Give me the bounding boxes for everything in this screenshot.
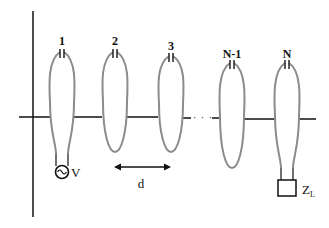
resonator-chain-diagram: · · · 1 2 3 N-1 N V d ZL [0, 0, 329, 228]
ellipsis: · · · [193, 112, 213, 123]
sine-wave-icon [58, 170, 67, 174]
load-label: ZL [302, 182, 315, 199]
ring-label-3: 3 [168, 39, 174, 53]
ring-loop [219, 63, 244, 168]
load-label-sub: L [310, 190, 315, 199]
ring-loop [274, 63, 299, 168]
resonator-ring-5 [274, 60, 299, 168]
load-label-main: Z [302, 182, 310, 197]
ring-label-2: 2 [112, 34, 118, 48]
ring-loop [102, 52, 127, 152]
ring-label-1: 1 [59, 34, 65, 48]
resonator-ring-3 [158, 53, 183, 152]
load-impedance-box [278, 180, 296, 196]
ring-loop [49, 52, 74, 154]
resonator-ring-2 [102, 49, 127, 152]
spacing-arrow-head-left [114, 164, 121, 171]
resonator-ring-4 [219, 60, 244, 168]
spacing-label: d [138, 176, 145, 191]
resonator-ring-1 [49, 49, 74, 154]
ring-label-n: N [283, 47, 292, 61]
source-label: V [71, 165, 81, 180]
spacing-arrow-head-right [164, 164, 171, 171]
ring-loop [158, 56, 183, 152]
ring-label-n-1: N-1 [223, 47, 242, 61]
